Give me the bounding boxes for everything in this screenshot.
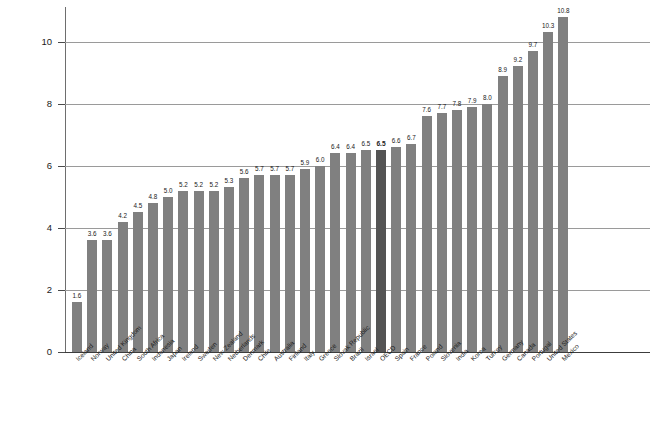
bar-value-mexico: 10.8: [552, 8, 574, 14]
bar-value-china: 4.2: [112, 213, 134, 219]
bar-norway: [87, 240, 97, 352]
bar-korea: [467, 107, 477, 352]
y-tick-label-8: 8: [0, 99, 52, 109]
bar-mexico: [558, 17, 568, 352]
y-axis-line: [65, 7, 66, 352]
bar-value-france: 6.7: [400, 135, 422, 141]
bar-poland: [422, 116, 432, 352]
bar-sweden: [194, 191, 204, 352]
bar-india: [452, 110, 462, 352]
bar-oecd: [376, 150, 386, 352]
bar-germany: [498, 76, 508, 352]
bar-china: [118, 222, 128, 352]
bar-value-turkey: 8.0: [476, 95, 498, 101]
bar-value-finland: 5.7: [279, 166, 301, 172]
y-tick-mark-8: [58, 104, 65, 105]
bar-value-greece: 6.0: [309, 157, 331, 163]
bar-chile: [254, 175, 264, 352]
bar-value-netherlands: 5.3: [218, 178, 240, 184]
bar-canada: [513, 66, 523, 352]
bar-value-japan: 5.0: [157, 188, 179, 194]
bar-indonesia: [148, 203, 158, 352]
bar-portugal: [528, 51, 538, 352]
y-tick-mark-10: [58, 42, 65, 43]
y-tick-mark-0: [58, 352, 65, 353]
bar-spain: [391, 147, 401, 352]
y-tick-label-2: 2: [0, 285, 52, 295]
y-tick-mark-6: [58, 166, 65, 167]
bar-denmark: [239, 178, 249, 352]
y-tick-mark-2: [58, 290, 65, 291]
bar-united-kingdom: [102, 240, 112, 352]
bar-greece: [315, 166, 325, 352]
bar-australia: [270, 175, 280, 352]
y-tick-label-10: 10: [0, 37, 52, 47]
bar-value-portugal: 9.7: [522, 42, 544, 48]
bar-value-iceland: 1.6: [66, 293, 88, 299]
bar-france: [406, 144, 416, 352]
bar-finland: [285, 175, 295, 352]
bar-brazil: [346, 153, 356, 352]
y-tick-label-6: 6: [0, 161, 52, 171]
bar-value-united-states: 10.3: [537, 23, 559, 29]
bar-value-united-kingdom: 3.6: [96, 231, 118, 237]
bar-value-canada: 9.2: [507, 57, 529, 63]
bar-slovak-republic: [330, 153, 340, 352]
y-tick-mark-4: [58, 228, 65, 229]
y-tick-label-4: 4: [0, 223, 52, 233]
bar-italy: [300, 169, 310, 352]
bar-value-indonesia: 4.8: [142, 194, 164, 200]
bar-value-germany: 8.9: [492, 67, 514, 73]
bar-value-south-africa: 4.5: [127, 203, 149, 209]
bar-japan: [163, 197, 173, 352]
y-tick-label-0: 0: [0, 347, 52, 357]
bar-ireland: [178, 191, 188, 352]
bar-chart: 0246810 1.63.63.64.24.54.85.05.25.25.25.…: [0, 0, 650, 432]
bar-united-states: [543, 32, 553, 352]
bar-new-zealand: [209, 191, 219, 352]
bar-turkey: [482, 104, 492, 352]
bar-israel: [361, 150, 371, 352]
bar-slovenia: [437, 113, 447, 352]
bar-netherlands: [224, 187, 234, 352]
bar-iceland: [72, 302, 82, 352]
